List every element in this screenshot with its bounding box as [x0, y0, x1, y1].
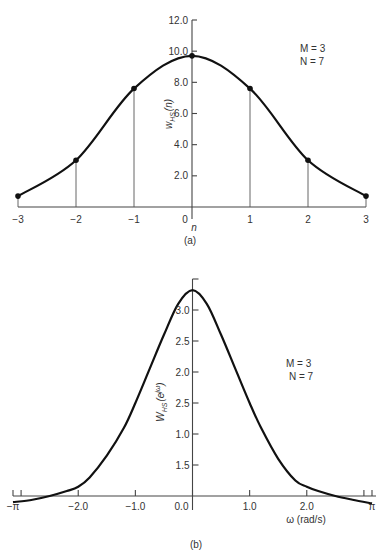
- y-tick-label-b: 1.5: [176, 460, 190, 471]
- data-point-a: [363, 193, 369, 199]
- svg-text:wHS(n): wHS(n): [163, 99, 176, 129]
- y-label-close-b: ): [155, 382, 166, 386]
- x-tick-label-b: −1.0: [125, 501, 145, 512]
- x-tick-label-a: 0: [182, 214, 188, 225]
- annotation-m-a: M = 3: [300, 43, 326, 54]
- x-tick-label-a: −3: [12, 214, 24, 225]
- data-point-a: [73, 157, 79, 163]
- y-label-sub-b: HS: [161, 402, 168, 412]
- annotation-n-b: N = 7: [289, 371, 314, 382]
- axes-b: [13, 279, 376, 510]
- x-tick-labels-b: −π−2.0−1.00.01.02.0π: [7, 501, 376, 512]
- x-tick-label-b: −π: [7, 501, 20, 512]
- data-point-a: [15, 193, 21, 199]
- y-label-arg-a: (n): [163, 99, 174, 111]
- data-point-a: [305, 157, 311, 163]
- y-tick-label-a: 12.0: [169, 15, 189, 26]
- y-tick-label-a: 2.0: [174, 170, 188, 181]
- y-tick-label-a: 8.0: [174, 77, 188, 88]
- y-tick-label-b: 2.0: [176, 367, 190, 378]
- y-axis-label-a: wHS(n): [163, 99, 176, 129]
- x-tick-label-b: 0.0: [175, 501, 189, 512]
- y-tick-label-a: 10.0: [169, 46, 189, 57]
- y-tick-label-a: 6.0: [174, 108, 188, 119]
- annotation-n-a: N = 7: [300, 56, 325, 67]
- svg-text:WHS(ejω): WHS(ejω): [154, 382, 168, 421]
- panel-b: −π−2.0−1.00.01.02.0π 1.51.02.52.02.53.0 …: [7, 279, 376, 550]
- y-tick-label-b: 3.0: [176, 305, 190, 316]
- panel-label-b: (b): [190, 539, 202, 550]
- y-label-sub-a: HS: [169, 112, 176, 122]
- annotation-m-b: M = 3: [286, 358, 312, 369]
- x-tick-label-a: 1: [247, 214, 253, 225]
- panel-label-a: (a): [184, 235, 196, 246]
- data-point-a: [247, 86, 253, 92]
- figure: −3−2−10123 2.04.06.08.010.012.0 n wHS(n)…: [0, 0, 391, 559]
- y-tick-label-b: 2.5: [176, 398, 190, 409]
- x-tick-label-a: −1: [128, 214, 140, 225]
- x-axis-label-b: ω (rad/s): [286, 514, 325, 525]
- x-tick-label-b: 1.0: [243, 501, 257, 512]
- panel-a: −3−2−10123 2.04.06.08.010.012.0 n wHS(n)…: [12, 15, 369, 247]
- x-tick-label-b: −2.0: [68, 501, 88, 512]
- y-tick-labels-b: 1.51.02.52.02.53.0: [176, 305, 190, 471]
- y-tick-label-b: 1.0: [176, 429, 190, 440]
- x-axis-label-a: n: [191, 222, 197, 233]
- y-tick-labels-a: 2.04.06.08.010.012.0: [169, 15, 189, 182]
- x-tick-label-b: 2.0: [300, 501, 314, 512]
- y-axis-label-b: WHS(ejω): [154, 382, 168, 421]
- data-point-a: [131, 86, 137, 92]
- x-tick-label-a: 3: [363, 214, 369, 225]
- y-tick-label-b: 2.5: [176, 336, 190, 347]
- data-point-a: [189, 53, 195, 59]
- x-tick-label-b: π: [369, 501, 376, 512]
- x-tick-label-a: 2: [305, 214, 311, 225]
- x-tick-label-a: −2: [70, 214, 82, 225]
- y-tick-label-a: 4.0: [174, 139, 188, 150]
